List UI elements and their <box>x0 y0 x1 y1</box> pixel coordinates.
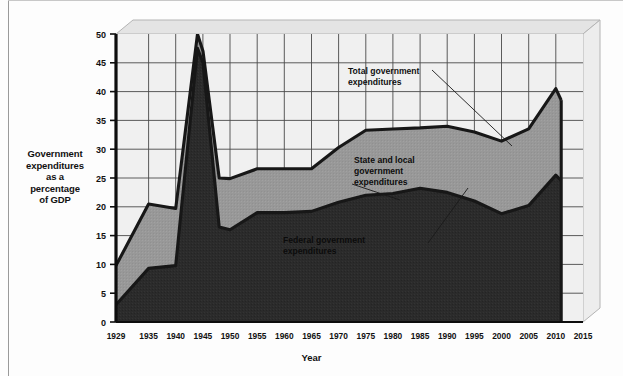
y-axis-title-line-3: as a <box>14 171 96 183</box>
x-tick-label: 1940 <box>166 331 185 341</box>
x-axis-title: Year <box>0 352 623 363</box>
x-tick-label: 2005 <box>519 331 538 341</box>
y-tick-label: 10 <box>96 260 106 270</box>
y-axis-title-line-4: percentage <box>14 183 96 195</box>
x-tick-label: 2010 <box>546 331 565 341</box>
annotation-total-line-2: expenditures <box>348 77 402 87</box>
x-tick-label: 1935 <box>139 331 158 341</box>
x-tick-label: 1965 <box>302 331 321 341</box>
y-axis-title-line-5: of GDP <box>14 194 96 206</box>
y-tick-label: 15 <box>96 231 106 241</box>
y-tick-label: 5 <box>101 289 106 299</box>
annotation-federal-line-2: expenditures <box>283 246 337 256</box>
y-axis-tick-labels: 50 45 40 35 30 25 20 15 10 5 0 <box>96 30 106 328</box>
figure-top-border <box>8 0 623 1</box>
x-tick-label: 1990 <box>438 331 457 341</box>
x-tick-label: 1955 <box>248 331 267 341</box>
chart-figure: Government expenditures as a percentage … <box>0 0 623 376</box>
x-tick-label: 1929 <box>107 331 126 341</box>
plot-3d-top-face <box>116 20 600 34</box>
y-tick-label: 35 <box>96 116 106 126</box>
y-tick-label: 25 <box>96 174 106 184</box>
x-axis-tick-labels: 1929 1935 1940 1945 1950 1955 1960 1965 … <box>107 331 593 341</box>
annotation-state-line-3: expenditures <box>354 177 408 187</box>
x-tick-label: 1945 <box>194 331 213 341</box>
annotation-state-line-1: State and local <box>354 155 415 165</box>
y-tick-label: 0 <box>101 318 106 328</box>
annotation-state-line-2: government <box>354 166 403 176</box>
x-tick-label: 2015 <box>574 331 593 341</box>
annotation-federal-line-1: Federal government <box>283 235 365 245</box>
x-tick-label: 2000 <box>492 331 511 341</box>
figure-left-border <box>8 0 9 376</box>
x-tick-label: 1975 <box>356 331 375 341</box>
x-tick-label: 1950 <box>221 331 240 341</box>
x-tick-label: 1980 <box>384 331 403 341</box>
y-tick-label: 20 <box>96 202 106 212</box>
x-tick-label: 1970 <box>329 331 348 341</box>
y-tick-label: 40 <box>96 87 106 97</box>
x-tick-label: 1995 <box>465 331 484 341</box>
y-axis-title-line-1: Government <box>14 148 96 160</box>
y-axis-title-line-2: expenditures <box>14 160 96 172</box>
x-tick-label: 1985 <box>411 331 430 341</box>
annotation-total-line-1: Total government <box>348 66 420 76</box>
y-tick-label: 30 <box>96 145 106 155</box>
plot-3d-right-face <box>583 20 600 322</box>
x-tick-label: 1960 <box>275 331 294 341</box>
y-tick-label: 45 <box>96 58 106 68</box>
y-tick-label: 50 <box>96 30 106 40</box>
y-axis-title: Government expenditures as a percentage … <box>14 148 96 206</box>
